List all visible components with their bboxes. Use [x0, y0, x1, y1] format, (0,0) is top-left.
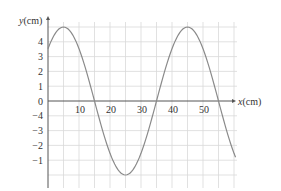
svg-text:50: 50 [199, 104, 209, 115]
svg-text:−3: −3 [32, 125, 43, 136]
svg-text:10: 10 [75, 104, 85, 115]
svg-text:3: 3 [38, 51, 43, 62]
x-axis-label: x(cm) [237, 96, 261, 108]
y-axis-label: y(cm) [18, 15, 42, 27]
wave-chart: 102030405043210−4−3−2−1 y(cm) x(cm) [0, 0, 281, 191]
svg-text:−4: −4 [32, 110, 43, 121]
svg-text:−1: −1 [32, 155, 43, 166]
svg-text:30: 30 [137, 104, 147, 115]
svg-text:−2: −2 [32, 140, 43, 151]
svg-text:0: 0 [38, 96, 43, 107]
svg-text:20: 20 [106, 104, 116, 115]
svg-text:4: 4 [38, 36, 43, 47]
svg-text:2: 2 [38, 66, 43, 77]
svg-text:40: 40 [168, 104, 178, 115]
svg-text:1: 1 [38, 81, 43, 92]
